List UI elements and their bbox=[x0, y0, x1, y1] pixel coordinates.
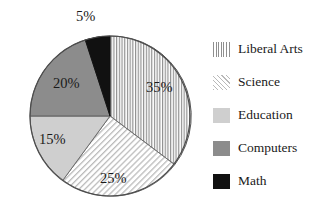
legend-item-computers[interactable]: Computers bbox=[213, 138, 297, 158]
slice-label-computers: 20% bbox=[53, 75, 80, 92]
pie-chart-figure: 35% 25% 15% 20% 5% Liberal Arts Science … bbox=[0, 0, 334, 214]
chart-legend: Liberal Arts Science Education Computers… bbox=[213, 39, 334, 204]
legend-label-computers: Computers bbox=[238, 141, 297, 155]
black-swatch-icon bbox=[213, 174, 230, 189]
legend-item-math[interactable]: Math bbox=[213, 171, 267, 191]
slice-label-math: 5% bbox=[76, 8, 95, 25]
slice-label-education: 15% bbox=[39, 131, 66, 148]
light-gray-swatch-icon bbox=[213, 108, 230, 123]
slice-label-liberal-arts: 35% bbox=[146, 79, 173, 96]
legend-label-liberal-arts: Liberal Arts bbox=[238, 42, 303, 56]
medium-gray-swatch-icon bbox=[213, 141, 230, 156]
legend-label-science: Science bbox=[238, 75, 280, 89]
slice-label-science: 25% bbox=[100, 170, 127, 187]
legend-item-science[interactable]: Science bbox=[213, 72, 280, 92]
diagonal-stripes-swatch-icon bbox=[213, 75, 230, 90]
vertical-stripes-swatch-icon bbox=[213, 42, 230, 57]
legend-item-liberal-arts[interactable]: Liberal Arts bbox=[213, 39, 303, 59]
legend-item-education[interactable]: Education bbox=[213, 105, 293, 125]
legend-label-math: Math bbox=[238, 174, 267, 188]
legend-label-education: Education bbox=[238, 108, 293, 122]
